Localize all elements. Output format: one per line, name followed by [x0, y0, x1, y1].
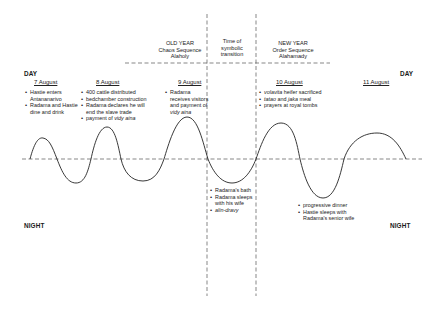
night-label-right: NIGHT — [390, 222, 410, 229]
phase-transition-line1: Time of — [209, 38, 255, 45]
event-item: payment of vidy aina — [81, 115, 151, 122]
phase-old-year: OLD YEAR Chaos Sequence Alaholy — [152, 40, 208, 60]
phase-transition-line3: transition — [209, 51, 255, 58]
night-label-left: NIGHT — [24, 222, 44, 229]
events-7-august-day: Hastie enters Antananarivo Radama and Ha… — [25, 89, 83, 115]
phase-old-year-title: OLD YEAR — [152, 40, 208, 47]
events-9-august-day: Radama receives visitors and payment of … — [165, 89, 211, 115]
event-item: Radama and Hastie dine and drink — [25, 102, 83, 115]
date-10-august: 10 August — [276, 79, 303, 85]
event-item: Radama sleeps with his wife — [210, 194, 260, 207]
event-item: Radama receives visitors and payment of … — [165, 89, 211, 115]
day-label-left: DAY — [24, 70, 37, 77]
event-item: Hastie sleeps with Radama's senior wife — [298, 209, 368, 222]
events-10-august-night: progressive dinner Hastie sleeps with Ra… — [298, 202, 368, 222]
date-9-august: 9 August — [178, 79, 201, 85]
phase-transition-line2: symbolic — [209, 45, 255, 52]
event-item: prayers at royal tombs — [259, 102, 339, 109]
day-night-wave — [30, 117, 406, 198]
events-9-august-night: Radama's bath Radama sleeps with his wif… — [210, 187, 260, 213]
phase-new-year: NEW YEAR Order Sequence Alahamady — [258, 40, 328, 60]
event-item: Hastie enters Antananarivo — [25, 89, 83, 102]
events-10-august-day: volavita heifer sacrificed tatao and jak… — [259, 89, 339, 109]
phase-new-year-title: NEW YEAR — [258, 40, 328, 47]
phase-old-year-name: Alaholy — [152, 53, 208, 60]
phase-new-year-name: Alahamady — [258, 53, 328, 60]
events-8-august-day: 400 cattle distributed bedchamber constr… — [81, 89, 151, 122]
date-11-august: 11 August — [363, 79, 389, 85]
phase-new-year-sequence: Order Sequence — [258, 47, 328, 54]
event-item: alin-dravy — [210, 207, 260, 214]
event-item: Radama declares he will end the slave tr… — [81, 102, 151, 115]
date-8-august: 8 August — [96, 79, 119, 85]
phase-transition: Time of symbolic transition — [209, 38, 255, 58]
phase-old-year-sequence: Chaos Sequence — [152, 47, 208, 54]
date-7-august: 7 August — [34, 79, 57, 85]
day-label-right: DAY — [400, 70, 413, 77]
